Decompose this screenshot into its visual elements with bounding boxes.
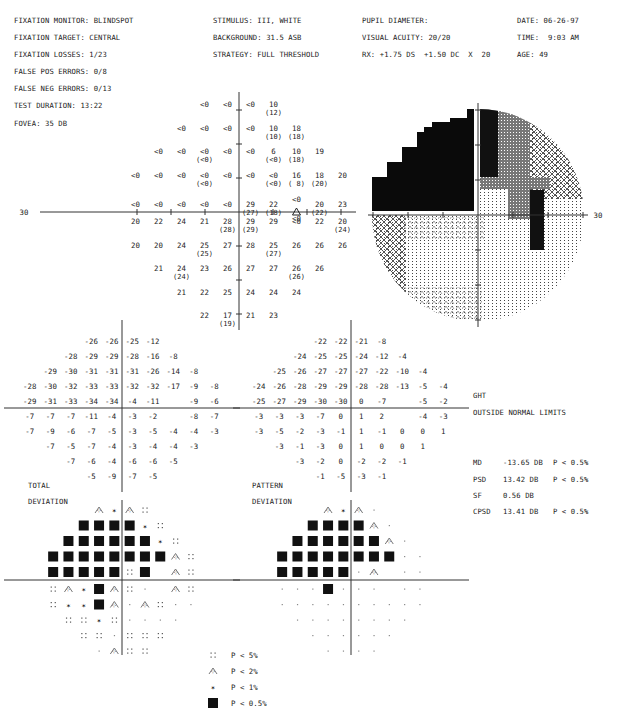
p-5-symbol-icon <box>112 622 113 623</box>
p-5-symbol-icon <box>211 653 212 654</box>
threshold-value: <0 <box>200 171 209 180</box>
threshold-value: 29 <box>246 200 255 209</box>
p-5-symbol-icon <box>142 653 143 654</box>
deviation-value: -2 <box>295 427 304 436</box>
p-0-5-symbol-icon <box>354 536 364 546</box>
threshold-value: <0 <box>154 200 163 209</box>
p-0-5-symbol-icon <box>338 567 348 577</box>
threshold-value: <0 <box>292 195 301 204</box>
p-5-symbol-icon <box>66 622 67 623</box>
threshold-value: 20 <box>315 200 324 209</box>
p-5-symbol-icon <box>81 633 82 634</box>
p-5-symbol-icon <box>101 633 102 634</box>
deviation-value: -25 <box>334 352 347 361</box>
threshold-value: 20 <box>338 217 347 226</box>
threshold-value: <0 <box>131 171 140 180</box>
deviation-value: -32 <box>64 382 77 391</box>
deviation-value: -3 <box>254 412 263 421</box>
deviation-value: 1 <box>421 442 425 451</box>
deviation-value: -5 <box>148 472 157 481</box>
threshold-value: 24 <box>177 241 186 250</box>
deviation-value: -31 <box>85 367 98 376</box>
threshold-repeat-value: (29) <box>242 226 259 234</box>
p-5-symbol-icon <box>158 637 159 638</box>
p-5-symbol-icon <box>192 587 193 588</box>
deviation-value: 0 <box>400 442 404 451</box>
deviation-value: -6 <box>148 457 157 466</box>
deviation-value: -28 <box>375 382 388 391</box>
normal-dot-icon <box>373 635 374 636</box>
p-0-5-symbol-icon <box>354 521 364 531</box>
deviation-value: -29 <box>314 382 327 391</box>
deviation-value: -24 <box>355 352 369 361</box>
deviation-value: -7 <box>128 472 137 481</box>
deviation-value: -4 <box>189 427 198 436</box>
threshold-value: <0 <box>177 171 186 180</box>
threshold-value: 26 <box>292 241 301 250</box>
deviation-value: -4 <box>107 442 116 451</box>
threshold-value: 17 <box>223 311 232 320</box>
p-0-5-symbol-icon <box>109 536 119 546</box>
deviation-value: -3 <box>439 412 448 421</box>
deviation-value: -33 <box>105 382 118 391</box>
deviation-value: -7 <box>377 397 386 406</box>
p-0-5-symbol-icon <box>338 521 348 531</box>
threshold-repeat-value: (22) <box>311 209 328 217</box>
deviation-value: -29 <box>105 352 118 361</box>
deviation-value: -5 <box>418 397 427 406</box>
legend-label: P < 2% <box>231 667 258 676</box>
p-5-symbol-icon <box>70 622 71 623</box>
p-5-symbol-icon <box>55 606 56 607</box>
deviation-value: -32 <box>146 382 159 391</box>
p-5-symbol-icon <box>162 602 163 603</box>
map-region-absolute <box>480 109 498 184</box>
deviation-value: -1 <box>295 442 304 451</box>
p-1-symbol-icon: ✶ <box>82 585 87 594</box>
deviation-value: 0 <box>339 412 343 421</box>
normal-dot-icon <box>343 635 344 636</box>
deviation-value: -30 <box>314 397 327 406</box>
normal-dot-icon <box>297 620 298 621</box>
deviation-value: -34 <box>85 397 99 406</box>
p-0-5-symbol-icon <box>292 567 302 577</box>
deviation-value: -8 <box>169 352 178 361</box>
normal-dot-icon <box>343 589 344 590</box>
normal-dot-icon <box>175 604 176 605</box>
deviation-value: -30 <box>44 382 57 391</box>
deviation-value: -3 <box>128 412 137 421</box>
threshold-grid <box>40 92 356 330</box>
p-0-5-symbol-icon <box>63 567 73 577</box>
normal-dot-icon <box>129 604 130 605</box>
normal-dot-icon <box>404 572 405 573</box>
threshold-value: <0 <box>246 100 255 109</box>
threshold-value: 24 <box>269 288 278 297</box>
p-5-symbol-icon <box>162 637 163 638</box>
p-5-symbol-icon <box>188 591 189 592</box>
deviation-value: -4 <box>128 397 137 406</box>
p-0-5-symbol-icon <box>140 552 150 562</box>
deviation-value: -3 <box>128 427 137 436</box>
deviation-value: -9 <box>46 427 55 436</box>
normal-dot-icon <box>99 651 100 652</box>
p-0-5-symbol-icon <box>384 552 394 562</box>
deviation-value: -26 <box>146 367 159 376</box>
deviation-value: -14 <box>167 367 181 376</box>
deviation-value: -9 <box>189 397 198 406</box>
p-5-symbol-icon <box>192 574 193 575</box>
deviation-value: -3 <box>254 427 263 436</box>
threshold-value: 28 <box>223 217 232 226</box>
p-5-symbol-icon <box>70 618 71 619</box>
deviation-value: -34 <box>105 397 119 406</box>
p-5-symbol-icon <box>97 633 98 634</box>
normal-dot-icon <box>114 635 115 636</box>
threshold-value: 27 <box>269 264 278 273</box>
threshold-value: <0 <box>223 100 232 109</box>
threshold-value: 26 <box>223 264 232 273</box>
threshold-value: 21 <box>177 288 186 297</box>
normal-dot-icon <box>312 589 313 590</box>
threshold-value: 24 <box>177 264 186 273</box>
p-5-symbol-icon <box>131 637 132 638</box>
p-0-5-symbol-icon <box>125 552 135 562</box>
deviation-value: 0 <box>400 427 404 436</box>
deviation-value: -7 <box>87 442 96 451</box>
